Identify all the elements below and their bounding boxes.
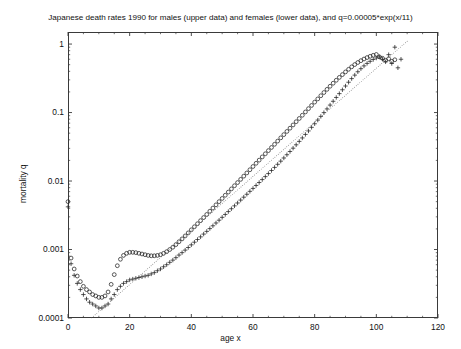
curve-dot <box>164 253 165 254</box>
data-point-plus <box>282 156 286 160</box>
curve-dot <box>298 136 299 137</box>
curve-dot <box>259 170 260 171</box>
data-point-circle <box>239 177 243 181</box>
curve-dot <box>403 44 404 45</box>
curve-dot <box>139 276 140 277</box>
data-point-plus <box>319 114 323 118</box>
curve-dot <box>376 68 377 69</box>
curve-dot <box>210 213 211 214</box>
data-point-circle <box>82 284 86 288</box>
data-point-plus <box>192 240 196 244</box>
data-point-plus <box>205 229 209 233</box>
curve-dot <box>251 178 252 179</box>
curve-dot <box>358 84 359 85</box>
curve-dot <box>369 73 370 74</box>
data-point-plus <box>171 258 175 262</box>
data-point-plus <box>183 248 187 252</box>
data-point-circle <box>211 206 215 210</box>
curve-dot <box>380 65 381 66</box>
data-point-circle <box>263 152 267 156</box>
curve-dot <box>118 294 119 295</box>
data-point-circle <box>325 87 329 91</box>
data-point-circle <box>294 120 298 124</box>
data-point-plus <box>177 253 181 257</box>
curve-dot <box>407 41 408 42</box>
data-point-plus <box>195 237 199 241</box>
curve-dot <box>200 222 201 223</box>
curve-dot <box>179 240 180 241</box>
curve-dot <box>335 103 336 104</box>
curve-dot <box>183 237 184 238</box>
data-point-circle <box>199 219 203 223</box>
curve-dot <box>144 271 145 272</box>
curve-dot <box>152 264 153 265</box>
data-point-plus <box>291 146 295 150</box>
x-tick-label: 100 <box>356 322 396 332</box>
curve-dot <box>191 230 192 231</box>
x-tick-label: 40 <box>171 322 211 332</box>
data-point-circle <box>202 216 206 220</box>
series-females <box>66 45 403 310</box>
data-point-plus <box>189 243 193 247</box>
data-point-plus <box>294 143 298 147</box>
curve-dot <box>185 236 186 237</box>
curve-dot <box>135 279 136 280</box>
curve-dot <box>130 283 131 284</box>
curve-dot <box>322 115 323 116</box>
curve-dot <box>261 169 262 170</box>
curve-dot <box>300 134 301 135</box>
curve-dot <box>354 87 355 88</box>
curve-dot <box>344 96 345 97</box>
curve-dot <box>101 308 102 309</box>
curve-dot <box>388 57 389 58</box>
curve-dot <box>280 152 281 153</box>
curve-dot <box>285 148 286 149</box>
curve-dot <box>132 282 133 283</box>
data-point-plus <box>393 45 397 49</box>
curve-dot <box>283 149 284 150</box>
data-point-circle <box>119 257 123 261</box>
data-point-plus <box>78 287 82 291</box>
data-point-plus <box>303 132 307 136</box>
curve-dot <box>254 175 255 176</box>
curve-dot <box>395 51 396 52</box>
data-point-plus <box>106 302 110 306</box>
curve-dot <box>351 90 352 91</box>
curve-dot <box>291 142 292 143</box>
data-point-circle <box>334 78 338 82</box>
curve-dot <box>405 42 406 43</box>
data-point-circle <box>217 200 221 204</box>
data-point-circle <box>297 117 301 121</box>
data-point-plus <box>297 139 301 143</box>
data-point-circle <box>214 203 218 207</box>
data-point-plus <box>235 201 239 205</box>
curve-dot <box>246 182 247 183</box>
data-point-circle <box>288 126 292 130</box>
curve-dot <box>241 186 242 187</box>
data-point-plus <box>356 70 360 74</box>
data-point-plus <box>245 192 249 196</box>
curve-dot <box>224 201 225 202</box>
data-point-plus <box>331 99 335 103</box>
curve-dot <box>169 249 170 250</box>
curve-dot <box>198 224 199 225</box>
data-point-plus <box>288 149 292 153</box>
data-point-circle <box>233 184 237 188</box>
curve-dot <box>93 316 94 317</box>
curve-dot <box>332 106 333 107</box>
curve-dot <box>286 146 287 147</box>
data-point-plus <box>161 265 165 269</box>
data-point-plus <box>242 195 246 199</box>
data-point-plus <box>251 186 255 190</box>
curve-dot <box>232 194 233 195</box>
data-point-plus <box>118 284 122 288</box>
curve-dot <box>103 307 104 308</box>
curve-dot <box>252 176 253 177</box>
data-point-plus <box>198 235 202 239</box>
data-point-circle <box>304 110 308 114</box>
data-point-plus <box>275 162 279 166</box>
data-point-circle <box>75 274 79 278</box>
curve-dot <box>171 247 172 248</box>
data-point-plus <box>254 183 258 187</box>
data-point-plus <box>285 153 289 157</box>
